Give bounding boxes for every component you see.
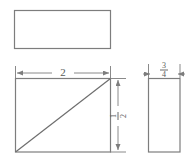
side-view-rectangle (149, 79, 181, 153)
width-dimension-label: 2 (60, 66, 66, 78)
depth-dimension-fraction: 3 4 (160, 61, 168, 80)
technical-drawing-canvas: 2 1 2 3 4 (0, 0, 188, 160)
depth-fraction-numerator: 3 (162, 61, 166, 70)
engineering-drawing-svg: 2 1 2 3 4 (0, 0, 188, 160)
height-fraction-denominator: 2 (119, 114, 128, 118)
height-dimension: 1 2 (109, 79, 128, 153)
top-view-rectangle (15, 11, 111, 49)
width-dimension: 2 (16, 66, 111, 78)
height-dimension-fraction: 1 2 (109, 112, 128, 120)
height-fraction-numerator: 1 (109, 114, 118, 118)
depth-dimension: 3 4 (143, 61, 185, 80)
depth-fraction-denominator: 4 (162, 70, 166, 79)
